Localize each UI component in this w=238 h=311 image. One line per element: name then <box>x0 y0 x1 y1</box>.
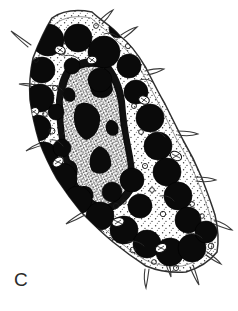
cell-illustration <box>0 0 238 311</box>
lipid-droplet <box>53 139 71 157</box>
lipid-droplet <box>117 54 141 78</box>
lipid-droplet <box>64 24 92 52</box>
lipid-droplet <box>195 221 217 243</box>
lipid-droplet <box>25 115 51 141</box>
figure-panel: C <box>0 0 238 311</box>
lipid-droplet <box>109 20 127 38</box>
vesicle <box>54 195 60 201</box>
lipid-droplet <box>48 104 64 120</box>
surface-process <box>11 31 31 47</box>
panel-label: C <box>14 270 28 289</box>
lipid-droplet <box>88 68 112 92</box>
lipid-droplet <box>29 57 55 83</box>
vesicle <box>89 231 95 237</box>
surface-process <box>144 269 149 288</box>
lipid-droplet <box>144 132 172 160</box>
lipid-droplet <box>120 168 144 192</box>
lipid-droplet <box>64 58 80 74</box>
lipid-droplet <box>86 202 114 230</box>
vesicle <box>44 20 49 25</box>
lipid-droplet <box>102 182 122 202</box>
lipid-droplet <box>136 104 164 132</box>
cell-body <box>0 0 238 311</box>
surface-process <box>121 27 137 38</box>
lipid-droplet <box>164 182 192 210</box>
lipid-droplet <box>128 194 152 218</box>
